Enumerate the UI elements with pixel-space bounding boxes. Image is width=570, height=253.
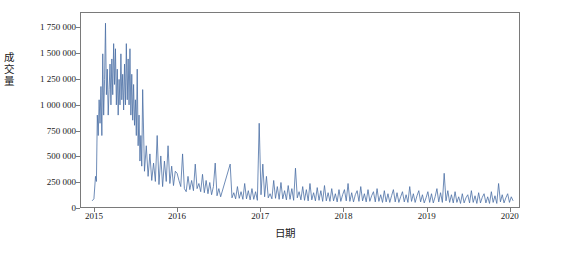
- plot-area: [80, 12, 520, 208]
- chart-figure: 成交量 0250 000500 000750 0001 000 0001 250…: [0, 0, 570, 253]
- x-tick-label: 2016: [157, 210, 197, 222]
- x-tick-label: 2015: [74, 210, 114, 222]
- volume-line-series: [81, 13, 519, 207]
- x-tick-label: 2018: [323, 210, 363, 222]
- y-axis-tick-marks: [0, 12, 80, 208]
- x-axis-title: 日期: [0, 228, 570, 240]
- x-tick-label: 2019: [407, 210, 447, 222]
- x-tick-label: 2020: [490, 210, 530, 222]
- x-axis-tick-labels: 201520162017201820192020: [80, 210, 520, 224]
- x-tick-label: 2017: [240, 210, 280, 222]
